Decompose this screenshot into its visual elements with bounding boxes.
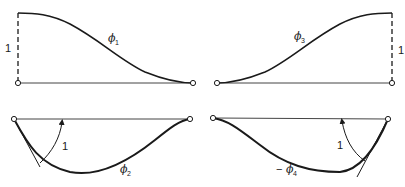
node-left bbox=[15, 80, 20, 85]
node-left bbox=[210, 115, 215, 120]
baseline bbox=[213, 118, 388, 119]
phi3-subscript: 3 bbox=[301, 37, 305, 44]
panel-phi1: 1 ϕ 1 bbox=[5, 13, 196, 86]
tangent-line bbox=[14, 119, 40, 167]
panel-phi3: 1 ϕ 3 bbox=[214, 13, 404, 86]
phi4-sign: − bbox=[276, 163, 282, 175]
shape-functions-diagram: 1 ϕ 1 1 ϕ 3 1 ϕ 2 1 − ϕ 4 bbox=[0, 0, 405, 187]
rotation-magnitude-label: 1 bbox=[62, 140, 68, 152]
shape-curve-phi4 bbox=[213, 118, 388, 172]
rotation-magnitude-label: 1 bbox=[337, 139, 343, 151]
shape-curve-phi1 bbox=[18, 13, 193, 83]
magnitude-label: 1 bbox=[398, 44, 404, 56]
phi2-subscript: 2 bbox=[127, 170, 131, 177]
tangent-line bbox=[357, 119, 388, 177]
panel-phi4: 1 − ϕ 4 bbox=[210, 115, 390, 177]
shape-curve-phi3 bbox=[217, 13, 392, 83]
node-right bbox=[389, 80, 394, 85]
rotation-arc bbox=[40, 122, 62, 163]
node-left bbox=[11, 116, 16, 121]
node-right bbox=[187, 116, 192, 121]
node-left bbox=[214, 80, 219, 85]
phi1-subscript: 1 bbox=[115, 39, 119, 46]
node-right bbox=[190, 80, 195, 85]
shape-curve-phi2 bbox=[14, 119, 190, 173]
phi4-subscript: 4 bbox=[293, 170, 297, 177]
node-right bbox=[385, 116, 390, 121]
rotation-arc bbox=[342, 121, 365, 161]
magnitude-label: 1 bbox=[5, 42, 11, 54]
panel-phi2: 1 ϕ 2 bbox=[11, 116, 192, 177]
